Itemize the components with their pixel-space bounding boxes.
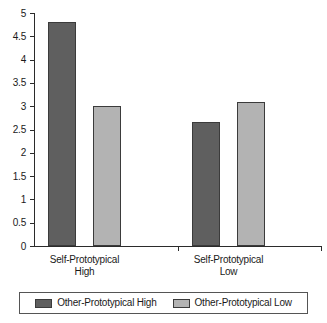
- x-axis-tick: [321, 246, 322, 251]
- y-axis-tick: 3.5: [30, 83, 35, 84]
- y-axis-tick-label: 3.5: [13, 78, 26, 88]
- bar-chart: 00.511.522.533.544.55 Self-PrototypicalH…: [0, 0, 327, 323]
- legend-swatch: [173, 299, 190, 308]
- y-axis-tick: 0.5: [30, 223, 35, 224]
- x-axis-tick: [178, 246, 179, 251]
- bar: [48, 22, 76, 246]
- category-label: Self-PrototypicalLow: [169, 254, 289, 278]
- category-label: Self-PrototypicalHigh: [25, 254, 145, 278]
- y-axis-tick-label: 4: [21, 55, 26, 65]
- plot-area: 00.511.522.533.544.55: [34, 13, 322, 246]
- y-axis-tick-label: 5: [21, 9, 26, 19]
- y-axis-tick: 0: [30, 246, 35, 247]
- y-axis-tick: 3: [30, 106, 35, 107]
- category-label-line: High: [25, 266, 145, 278]
- y-axis-tick-label: 1: [21, 195, 26, 205]
- y-axis-tick: 2: [30, 153, 35, 154]
- y-axis-tick-label: 1.5: [13, 172, 26, 182]
- y-axis-tick: 2.5: [30, 130, 35, 131]
- legend-swatch: [35, 299, 52, 308]
- y-axis-tick-label: 4.5: [13, 32, 26, 42]
- y-axis-tick: 4.5: [30, 36, 35, 37]
- y-axis-tick-label: 0.5: [13, 218, 26, 228]
- category-label-line: Self-Prototypical: [25, 254, 145, 266]
- y-axis-tick: 4: [30, 60, 35, 61]
- bar: [93, 106, 121, 246]
- y-axis-tick-label: 2.5: [13, 125, 26, 135]
- legend-label: Other-Prototypical Low: [195, 298, 292, 308]
- legend-label: Other-Prototypical High: [57, 298, 156, 308]
- legend-entry: Other-Prototypical High: [35, 298, 156, 308]
- y-axis-tick: 1: [30, 199, 35, 200]
- bar: [192, 122, 220, 246]
- y-axis-tick: 1.5: [30, 176, 35, 177]
- chart-legend: Other-Prototypical HighOther-Prototypica…: [19, 292, 308, 314]
- category-label-line: Self-Prototypical: [169, 254, 289, 266]
- y-axis-tick: 5: [30, 13, 35, 14]
- y-axis-tick-label: 3: [21, 102, 26, 112]
- y-axis-tick-label: 0: [21, 242, 26, 252]
- category-label-line: Low: [169, 266, 289, 278]
- y-axis-tick-label: 2: [21, 148, 26, 158]
- bar: [237, 102, 265, 246]
- legend-entry: Other-Prototypical Low: [173, 298, 292, 308]
